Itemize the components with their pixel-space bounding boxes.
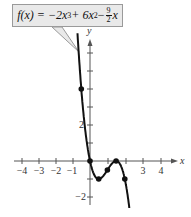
x-axis-label: x <box>179 155 185 166</box>
data-point <box>79 86 85 92</box>
callout-pointer <box>52 27 79 52</box>
function-label: f(x) = −2x3 + 6x2 − 92x <box>12 4 123 27</box>
x-tick-label: 3 <box>141 165 146 176</box>
function-curve <box>78 33 130 208</box>
denominator: 2 <box>107 16 111 24</box>
label-mid: + 6x <box>71 8 93 23</box>
y-axis-arrow-icon <box>88 39 93 46</box>
label-tail: x <box>113 8 118 23</box>
numerator: 9 <box>107 7 111 15</box>
label-minus: − <box>98 8 105 23</box>
data-point <box>96 176 102 182</box>
label-lhs: f(x) = −2x <box>17 8 67 23</box>
function-plot: −4 −3 −2 −1 3 4 2 −2 x y <box>0 0 191 217</box>
x-axis-arrow-icon <box>171 159 178 164</box>
data-point <box>87 158 93 164</box>
x-tick-label: −4 <box>17 165 28 176</box>
x-tick-label: −3 <box>34 165 45 176</box>
x-tick-label: 4 <box>159 165 164 176</box>
data-point <box>113 158 119 164</box>
fraction: 92 <box>106 7 112 24</box>
data-point <box>105 167 111 173</box>
data-point <box>122 176 128 182</box>
x-tick-label: −1 <box>67 165 78 176</box>
x-tick-label: −2 <box>51 165 62 176</box>
y-tick-label: −2 <box>75 191 86 202</box>
